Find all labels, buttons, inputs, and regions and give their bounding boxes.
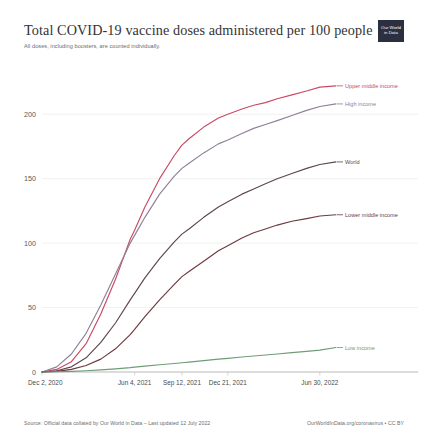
series-label: Low income bbox=[345, 345, 375, 351]
x-axis-tick-label: Jun 4, 2021 bbox=[118, 379, 152, 386]
x-axis-tick-label: Dec 2, 2020 bbox=[28, 379, 63, 386]
series-line bbox=[42, 104, 336, 372]
y-axis-tick-label: 50 bbox=[28, 303, 36, 312]
license-note[interactable]: OurWorldInData.org/coronavirus • CC BY bbox=[307, 420, 404, 426]
x-axis-tick-label: Dec 21, 2021 bbox=[209, 379, 247, 386]
gridlines bbox=[42, 114, 418, 372]
series-label: Upper middle income bbox=[345, 83, 398, 89]
series-label: High income bbox=[345, 101, 376, 107]
x-axis-tick-labels: Dec 2, 2020Jun 4, 2021Sep 12, 2021Dec 21… bbox=[28, 379, 339, 387]
x-axis-tick-label: Sep 12, 2021 bbox=[163, 379, 201, 387]
page-title: Total COVID-19 vaccine doses administere… bbox=[24, 22, 404, 38]
owid-logo-line2: in Data bbox=[378, 30, 404, 35]
x-axis-tick-marks bbox=[42, 372, 320, 376]
y-axis-tick-labels: 050100150200 bbox=[24, 110, 36, 377]
series-line bbox=[42, 162, 336, 372]
y-axis-tick-label: 200 bbox=[24, 110, 36, 119]
chart-header: Total COVID-19 vaccine doses administere… bbox=[24, 22, 404, 62]
series-label: World bbox=[345, 159, 360, 165]
series-lines bbox=[42, 86, 336, 372]
series-inline-labels: Upper middle incomeHigh incomeWorldLower… bbox=[337, 83, 398, 351]
series-line bbox=[42, 348, 336, 372]
series-line bbox=[42, 215, 336, 372]
series-label: Lower middle income bbox=[345, 212, 398, 218]
y-axis-tick-label: 0 bbox=[32, 368, 36, 377]
chart-footer: Source: Official data collated by Our Wo… bbox=[24, 420, 404, 432]
chart-card: Total COVID-19 vaccine doses administere… bbox=[0, 0, 422, 448]
y-axis-tick-label: 150 bbox=[24, 174, 36, 183]
x-axis-tick-label: Jun 30, 2022 bbox=[301, 379, 338, 386]
plot-area: 050100150200 Dec 2, 2020Jun 4, 2021Sep 1… bbox=[0, 60, 422, 390]
owid-logo[interactable]: Our World in Data bbox=[378, 20, 404, 42]
line-chart-svg: 050100150200 Dec 2, 2020Jun 4, 2021Sep 1… bbox=[0, 60, 422, 390]
y-axis-tick-label: 100 bbox=[24, 239, 36, 248]
chart-subtitle: All doses, including boosters, are count… bbox=[24, 42, 404, 50]
source-note: Source: Official data collated by Our Wo… bbox=[24, 420, 210, 426]
